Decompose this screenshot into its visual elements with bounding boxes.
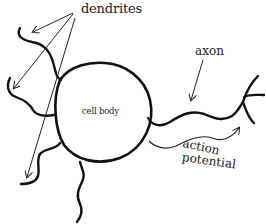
neuron-drawing	[0, 0, 266, 224]
dendrites-label: dendrites	[81, 2, 142, 15]
dendrite-upper-left	[19, 28, 61, 80]
axon-pointer	[191, 60, 203, 100]
axon-shape	[148, 102, 243, 125]
dendrites-pointer-1	[33, 13, 73, 32]
axon-terminal-right	[244, 95, 264, 97]
axon-terminal-up	[243, 76, 258, 102]
neuron-diagram: dendrites axon cell body action potentia…	[0, 0, 266, 224]
dendrites-pointer-2	[14, 14, 73, 88]
dendrite-lower-left	[21, 143, 60, 184]
axon-label: axon	[195, 45, 224, 57]
dendrite-lower	[77, 162, 84, 222]
cell-body-label: cell body	[82, 107, 119, 116]
axon-terminal-down	[243, 102, 254, 123]
